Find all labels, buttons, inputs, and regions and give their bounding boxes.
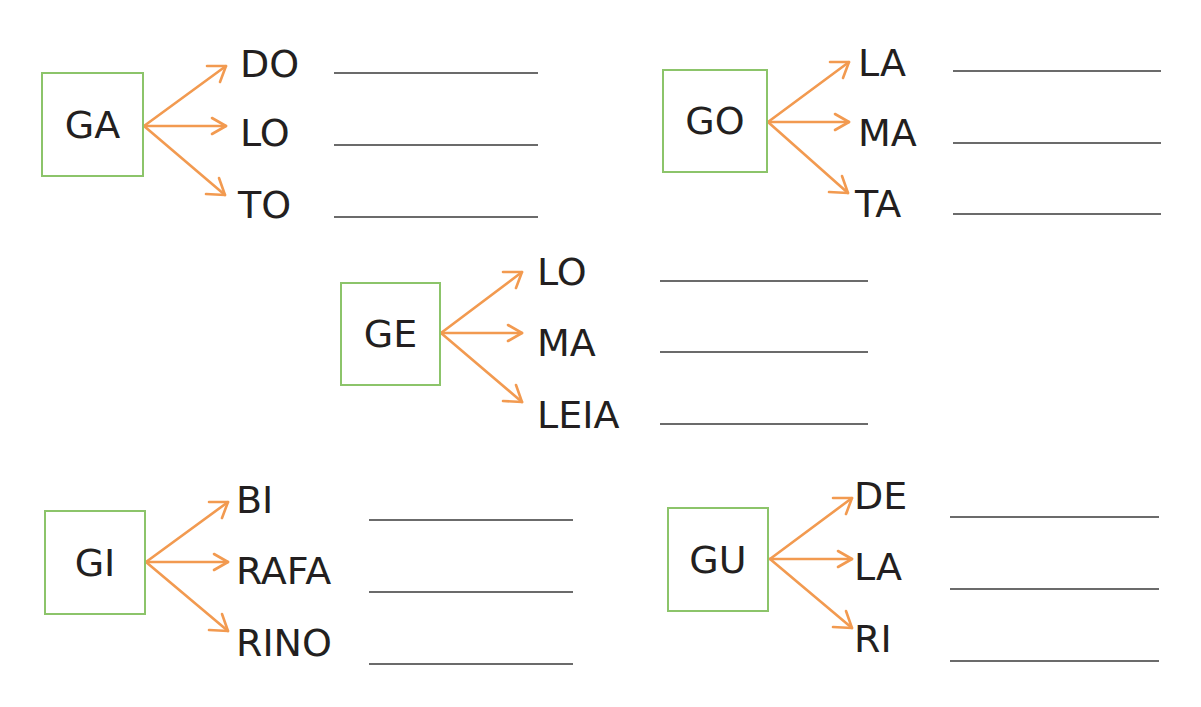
syllable-group-ge: GE LO MA LEIA bbox=[0, 0, 1201, 707]
arrow-icon bbox=[441, 333, 522, 402]
arrow-icon bbox=[144, 118, 226, 134]
ending-word: RI bbox=[854, 620, 892, 658]
arrow-icon bbox=[441, 272, 522, 333]
answer-blank[interactable] bbox=[369, 663, 573, 665]
ending-word: DO bbox=[240, 45, 299, 83]
ending-word: LO bbox=[537, 253, 587, 291]
arrow-icon bbox=[146, 554, 228, 570]
arrow-icon bbox=[768, 122, 848, 193]
arrows-layer bbox=[0, 0, 1201, 707]
answer-blank[interactable] bbox=[660, 351, 868, 353]
ending-word: MA bbox=[858, 114, 917, 152]
ending-word: DE bbox=[854, 477, 907, 515]
syllable-box: GI bbox=[44, 510, 146, 615]
syllable-box: GU bbox=[667, 507, 769, 612]
syllable-label: GU bbox=[689, 538, 746, 582]
ending-word: MA bbox=[537, 324, 596, 362]
arrow-icon bbox=[768, 114, 849, 130]
answer-blank[interactable] bbox=[950, 588, 1159, 590]
syllable-label: GO bbox=[685, 99, 744, 143]
ending-word: RINO bbox=[236, 624, 332, 662]
answer-blank[interactable] bbox=[334, 216, 538, 218]
syllable-box: GE bbox=[340, 282, 441, 386]
ending-word: BI bbox=[236, 481, 273, 519]
answer-blank[interactable] bbox=[950, 516, 1159, 518]
answer-blank[interactable] bbox=[369, 591, 573, 593]
arrow-icon bbox=[768, 62, 849, 122]
answer-blank[interactable] bbox=[953, 142, 1161, 144]
arrow-icon bbox=[441, 325, 522, 341]
ending-word: LA bbox=[854, 548, 902, 586]
arrow-icon bbox=[770, 498, 852, 559]
ending-word: LEIA bbox=[537, 396, 619, 434]
answer-blank[interactable] bbox=[953, 213, 1161, 215]
arrow-icon bbox=[144, 66, 226, 126]
arrow-icon bbox=[146, 502, 228, 562]
arrow-icon bbox=[146, 562, 228, 631]
ending-word: TO bbox=[238, 186, 291, 224]
syllable-group-ga: GA DO LO TO bbox=[0, 0, 1201, 707]
syllable-group-gi: GI BI RAFA RINO bbox=[0, 0, 1201, 707]
answer-blank[interactable] bbox=[369, 519, 573, 521]
syllable-label: GE bbox=[364, 312, 417, 356]
syllable-label: GA bbox=[65, 103, 120, 147]
syllable-group-go: GO LA MA TA bbox=[0, 0, 1201, 707]
syllable-group-gu: GU DE LA RI bbox=[0, 0, 1201, 707]
arrow-icon bbox=[770, 559, 852, 628]
answer-blank[interactable] bbox=[950, 660, 1159, 662]
ending-word: LA bbox=[858, 44, 906, 82]
answer-blank[interactable] bbox=[334, 72, 538, 74]
answer-blank[interactable] bbox=[660, 280, 868, 282]
ending-word: RAFA bbox=[236, 552, 331, 590]
answer-blank[interactable] bbox=[334, 144, 538, 146]
answer-blank[interactable] bbox=[953, 70, 1161, 72]
ending-word: LO bbox=[240, 114, 290, 152]
ending-word: TA bbox=[855, 185, 901, 223]
syllable-box: GA bbox=[41, 72, 144, 177]
answer-blank[interactable] bbox=[660, 423, 868, 425]
arrow-icon bbox=[770, 551, 852, 567]
syllable-label: GI bbox=[75, 541, 116, 585]
syllable-box: GO bbox=[662, 69, 768, 173]
arrow-icon bbox=[144, 126, 225, 195]
